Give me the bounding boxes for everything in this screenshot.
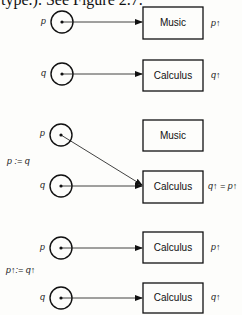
var-label-q: q	[40, 292, 45, 302]
arrow-p	[61, 135, 142, 185]
panel-after-value-assignment: Calculus Calculus	[50, 232, 203, 313]
deref-label: p↑	[211, 18, 221, 28]
box-label: Calculus	[154, 242, 192, 253]
box-label: Calculus	[154, 70, 192, 81]
step-label: p↑:= q↑	[6, 265, 35, 275]
var-label-q: q	[41, 68, 46, 78]
panel-initial: Music Calculus	[51, 7, 203, 91]
pointer-diagram: Music Calculus Music Calculus Calculus C…	[0, 0, 242, 315]
panel-after-pointer-assignment: Music Calculus	[50, 120, 203, 203]
box-label: Calculus	[154, 181, 192, 192]
var-label-p: p	[41, 16, 46, 26]
var-label-q: q	[40, 180, 45, 190]
step-label: p := q	[7, 156, 30, 166]
deref-label: p↑	[211, 242, 221, 252]
deref-label: q↑	[211, 292, 221, 302]
box-label: Music	[160, 17, 186, 28]
box-label: Calculus	[154, 292, 192, 303]
var-label-p: p	[40, 242, 45, 252]
deref-label: q↑	[211, 70, 221, 80]
var-label-p: p	[40, 128, 45, 138]
deref-label: q↑ = p↑	[208, 181, 237, 191]
box-label: Music	[160, 130, 186, 141]
